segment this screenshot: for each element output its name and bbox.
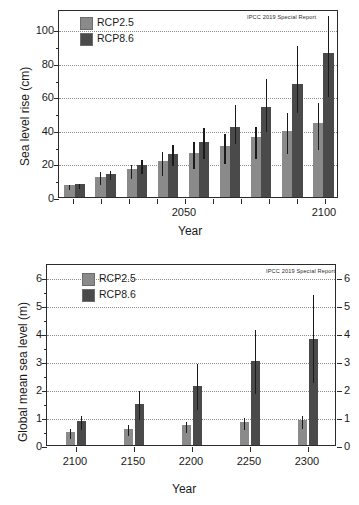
y-tick-label-60: 60 xyxy=(24,92,54,102)
x-tick-2020 xyxy=(101,199,102,204)
x-tick-2040 xyxy=(157,199,158,204)
y-tick-minor xyxy=(56,182,59,183)
gridline-y-4 xyxy=(47,335,335,336)
error-bar-rcp25-2020 xyxy=(100,172,101,185)
y-tick-40 xyxy=(54,132,59,133)
y-tick-minor xyxy=(44,293,47,294)
y-tick-label-3: 3 xyxy=(12,357,42,367)
gridline-y-2 xyxy=(47,391,335,392)
y-tick-label-4: 4 xyxy=(12,329,42,339)
y-tick-0 xyxy=(42,447,47,448)
error-bar-rcp86-2250 xyxy=(255,330,256,394)
top-y-axis-title: Sea level rise (cm) xyxy=(18,67,32,166)
y-tick-label-20: 20 xyxy=(24,159,54,169)
y-tick-80 xyxy=(54,65,59,66)
y-tick-label-2: 2 xyxy=(12,385,42,395)
y-tick-minor xyxy=(56,82,59,83)
error-bar-rcp86-2040 xyxy=(172,145,173,166)
y-tick-label-right-4: 4 xyxy=(344,329,359,339)
y-tick-right-1 xyxy=(337,419,342,420)
x-tick-2080 xyxy=(269,199,270,204)
legend-swatch-rcp25-icon xyxy=(80,17,93,30)
x-tick-label-2150: 2150 xyxy=(108,456,158,467)
x-tick-2300 xyxy=(308,447,309,452)
error-bar-rcp86-2100 xyxy=(81,416,82,429)
x-tick-2010 xyxy=(73,199,74,204)
y-tick-label-0: 0 xyxy=(12,441,42,451)
error-bar-rcp25-2250 xyxy=(244,418,245,430)
y-tick-6 xyxy=(42,279,47,280)
y-tick-right-4 xyxy=(337,335,342,336)
error-bar-rcp25-2050 xyxy=(193,142,194,169)
y-tick-label-right-3: 3 xyxy=(344,357,359,367)
y-tick-label-right-2: 2 xyxy=(344,385,359,395)
error-bar-rcp86-2200 xyxy=(197,364,198,409)
y-tick-0 xyxy=(54,199,59,200)
gridline-y-1 xyxy=(47,419,335,420)
error-bar-rcp86-2030 xyxy=(141,160,142,173)
error-bar-rcp25-2300 xyxy=(302,416,303,429)
legend-swatch-rcp86-icon xyxy=(80,33,93,46)
x-tick-2200 xyxy=(192,447,193,452)
x-tick-2060 xyxy=(213,199,214,204)
x-tick-2250 xyxy=(250,447,251,452)
x-tick-2090 xyxy=(297,199,298,204)
y-tick-right-0 xyxy=(337,447,342,448)
legend-swatch-rcp86-icon xyxy=(82,289,95,302)
x-tick-2100 xyxy=(325,199,326,204)
bottom-annotation-stamp: IPCC 2019 Special Report xyxy=(266,268,335,274)
y-tick-right-6 xyxy=(337,279,342,280)
y-tick-1 xyxy=(42,419,47,420)
y-tick-60 xyxy=(54,98,59,99)
x-tick-2070 xyxy=(241,199,242,204)
x-tick-2100 xyxy=(76,447,77,452)
error-bar-rcp25-2090 xyxy=(318,103,319,150)
error-bar-rcp25-2150 xyxy=(128,425,129,436)
y-tick-label-right-5: 5 xyxy=(344,301,359,311)
y-tick-label-100: 100 xyxy=(24,25,54,35)
y-tick-label-right-1: 1 xyxy=(344,413,359,423)
error-bar-rcp86-2070 xyxy=(266,79,267,132)
y-tick-label-40: 40 xyxy=(24,126,54,136)
y-tick-5 xyxy=(42,307,47,308)
error-bar-rcp25-2010 xyxy=(69,185,70,190)
error-bar-rcp25-2040 xyxy=(162,152,163,176)
legend-swatch-rcp25-icon xyxy=(82,273,95,286)
y-tick-label-5: 5 xyxy=(12,301,42,311)
error-bar-rcp25-2060 xyxy=(224,134,225,163)
error-bar-rcp25-2030 xyxy=(131,165,132,179)
x-tick-label-2100: 2100 xyxy=(50,456,100,467)
y-tick-label-6: 6 xyxy=(12,273,42,283)
y-tick-3 xyxy=(42,363,47,364)
chart-panel-bottom: IPCC 2019 Special Report RCP2.5 RCP8.6 G… xyxy=(0,252,359,505)
y-tick-4 xyxy=(42,335,47,336)
error-bar-rcp86-2050 xyxy=(203,128,204,159)
error-bar-rcp25-2100 xyxy=(70,429,71,439)
y-tick-minor xyxy=(56,48,59,49)
error-bar-rcp25-2200 xyxy=(186,422,187,433)
y-tick-2 xyxy=(42,391,47,392)
y-tick-minor xyxy=(44,405,47,406)
y-tick-minor xyxy=(56,149,59,150)
y-tick-label-80: 80 xyxy=(24,59,54,69)
y-tick-20 xyxy=(54,165,59,166)
x-tick-label-2250: 2250 xyxy=(224,456,274,467)
error-bar-rcp86-2080 xyxy=(297,46,298,112)
x-tick-label-2300: 2300 xyxy=(282,456,332,467)
y-tick-minor xyxy=(44,433,47,434)
figure-sea-level-rise: IPCC 2019 Special Report RCP2.5 RCP8.6 S… xyxy=(0,0,359,505)
gridline-y-3 xyxy=(47,363,335,364)
error-bar-rcp25-2070 xyxy=(255,127,256,159)
y-tick-minor xyxy=(44,349,47,350)
gridline-y-5 xyxy=(47,307,335,308)
y-tick-label-right-0: 0 xyxy=(344,441,359,451)
chart-panel-top: IPCC 2019 Special Report RCP2.5 RCP8.6 S… xyxy=(0,0,359,240)
y-tick-100 xyxy=(54,31,59,32)
y-tick-minor xyxy=(56,115,59,116)
y-tick-right-5 xyxy=(337,307,342,308)
error-bar-rcp25-2080 xyxy=(287,113,288,154)
y-tick-right-3 xyxy=(337,363,342,364)
x-tick-label-2100: 2100 xyxy=(299,207,349,218)
y-tick-right-2 xyxy=(337,391,342,392)
legend-label-rcp25: RCP2.5 xyxy=(99,272,136,285)
